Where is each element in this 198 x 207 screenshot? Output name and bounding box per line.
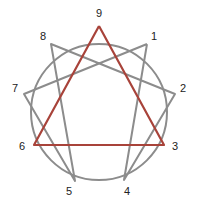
point-label-7: 7 [12,82,18,94]
enneagram-svg: 912345678 [0,0,198,207]
point-label-8: 8 [40,30,46,42]
point-label-4: 4 [124,185,130,197]
point-label-1: 1 [151,30,157,42]
point-label-9: 9 [96,7,102,19]
point-label-3: 3 [172,140,178,152]
point-label-6: 6 [19,140,25,152]
point-label-5: 5 [66,185,72,197]
point-label-2: 2 [180,82,186,94]
point-labels: 912345678 [12,7,186,197]
enneagram-diagram: 912345678 [0,0,198,207]
hexad-figure [24,44,175,181]
